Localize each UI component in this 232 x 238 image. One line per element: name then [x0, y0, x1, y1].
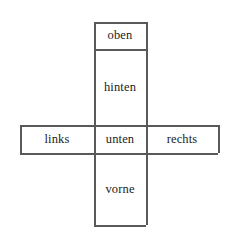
net-cell-rechts: rechts: [146, 125, 218, 153]
net-cell-unten: unten: [94, 125, 146, 153]
net-line-links-left: [20, 125, 22, 153]
net-line-column-left: [94, 22, 96, 225]
net-line-top-of-band: [20, 125, 218, 127]
net-cell-vorne: vorne: [94, 153, 146, 225]
net-cell-label-oben: oben: [108, 29, 133, 42]
net-cell-label-links: links: [44, 133, 69, 146]
net-line-column-right: [146, 22, 148, 225]
net-line-oben-hinten-seam: [94, 49, 146, 51]
net-cell-label-vorne: vorne: [105, 183, 134, 196]
net-line-bottom-of-band: [20, 153, 218, 155]
net-cell-hinten: hinten: [94, 49, 146, 125]
net-line-rechts-right: [218, 125, 220, 153]
cube-net-figure: oben hinten links unten rechts vorne: [0, 0, 232, 238]
net-cell-label-hinten: hinten: [104, 81, 136, 94]
net-cell-oben: oben: [94, 22, 146, 49]
net-line-bottom-of-vorne: [94, 225, 146, 227]
net-cell-label-rechts: rechts: [167, 133, 198, 146]
net-cell-label-unten: unten: [106, 133, 135, 146]
net-cell-links: links: [20, 125, 94, 153]
net-line-top-of-oben: [94, 22, 146, 24]
